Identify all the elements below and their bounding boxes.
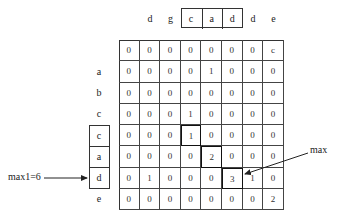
arrow-icon xyxy=(245,153,308,174)
arrows-layer xyxy=(0,0,344,220)
